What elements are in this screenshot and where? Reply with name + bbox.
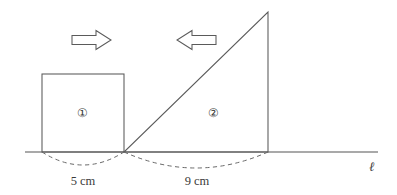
dimension-arc-right	[124, 152, 268, 168]
dimension-label-nine-cm: 9 cm	[185, 174, 210, 188]
baseline-label: ℓ	[369, 159, 375, 174]
region-label-two: ②	[208, 106, 219, 120]
figure-canvas: ① ② 5 cm 9 cm ℓ	[0, 0, 397, 195]
dimension-arc-left	[42, 152, 124, 165]
left-arrow-icon	[177, 31, 216, 50]
right-arrow-icon	[72, 31, 111, 50]
geometry-figure: ① ② 5 cm 9 cm ℓ	[0, 0, 397, 195]
dimension-label-five-cm: 5 cm	[71, 174, 96, 188]
region-label-one: ①	[77, 106, 88, 120]
triangle-shape	[124, 12, 268, 152]
